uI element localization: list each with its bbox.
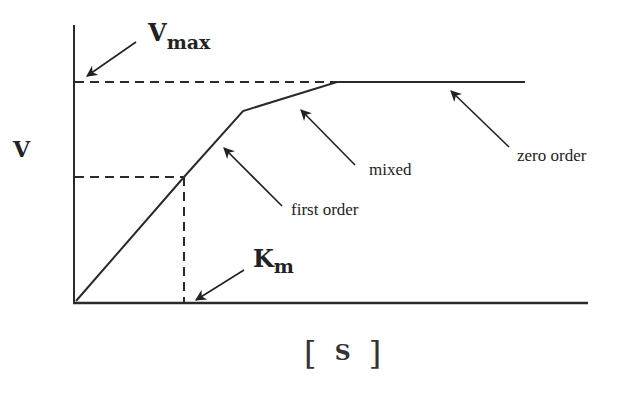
km-arrow-icon <box>196 270 244 300</box>
vmax-arrow-icon <box>87 42 136 76</box>
x-axis-bracket-right: ] <box>369 334 381 372</box>
y-axis-label: V <box>13 136 30 162</box>
first-order-label: first order <box>291 200 359 220</box>
first-order-arrow-icon <box>224 148 282 206</box>
zero-order-arrow-icon <box>451 91 509 147</box>
vmax-label-sub: max <box>167 31 211 53</box>
km-label-main: K <box>253 244 274 273</box>
rate-curve <box>76 82 525 301</box>
mixed-arrow-icon <box>301 110 355 165</box>
vmax-label: Vmax <box>148 18 210 47</box>
km-label: Km <box>253 244 294 273</box>
vmax-label-main: V <box>148 18 167 47</box>
x-axis-label: [ S ] <box>304 334 381 372</box>
x-axis-bracket-left: [ <box>304 334 316 372</box>
mixed-label: mixed <box>369 160 412 180</box>
x-axis-symbol: S <box>327 339 359 365</box>
km-label-sub: m <box>274 255 294 277</box>
zero-order-label: zero order <box>517 146 586 166</box>
